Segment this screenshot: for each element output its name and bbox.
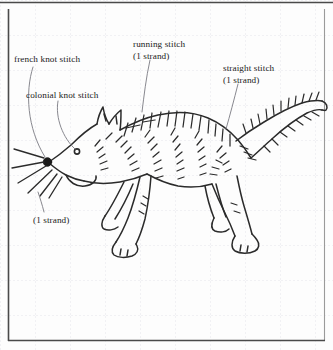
embroidery-pattern-diagram: french knot stitch colonial knot stitch …: [0, 0, 333, 350]
label-running-stitch-strand: (1 strand): [133, 51, 185, 63]
label-straight-stitch: straight stitch (1 strand): [223, 63, 274, 86]
label-colonial-knot-stitch: colonial knot stitch: [26, 90, 98, 102]
label-whisker-strand: (1 strand): [33, 215, 69, 227]
leader-french-knot: [29, 67, 45, 157]
label-whisker-strand-text: (1 strand): [33, 215, 69, 225]
label-colonial-knot-stitch-text: colonial knot stitch: [26, 90, 98, 100]
leader-straight-stitch: [226, 84, 238, 129]
leader-running-stitch: [142, 60, 150, 112]
label-running-stitch-text: running stitch: [133, 39, 185, 49]
label-straight-stitch-strand: (1 strand): [223, 75, 274, 87]
label-french-knot-stitch: french knot stitch: [14, 54, 80, 66]
label-straight-stitch-text: straight stitch: [223, 63, 274, 73]
leader-colonial-knot: [57, 101, 75, 149]
label-french-knot-stitch-text: french knot stitch: [14, 54, 80, 64]
label-running-stitch: running stitch (1 strand): [133, 39, 185, 62]
